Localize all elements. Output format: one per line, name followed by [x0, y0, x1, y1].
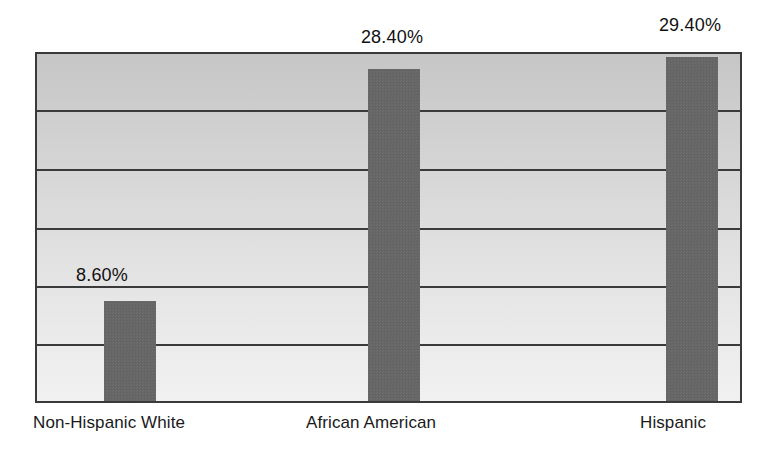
bar-non-hispanic-white[interactable]: [104, 301, 156, 401]
bar-african-american[interactable]: [368, 69, 420, 401]
value-label-african-american: 28.40%: [340, 27, 444, 48]
y-axis-label: es: [0, 150, 14, 270]
category-label-african-american: African American: [306, 413, 436, 433]
category-label-non-hispanic-white: Non-Hispanic White: [33, 413, 185, 433]
y-axis-label-text: es: [3, 150, 15, 270]
value-label-hispanic: 29.40%: [638, 15, 742, 36]
plot-area: [35, 52, 742, 403]
value-label-non-hispanic-white: 8.60%: [62, 265, 142, 286]
bar-hispanic[interactable]: [666, 57, 718, 401]
bar-chart: es 8.60% 28.40% 29.40% Non-Hispanic Whit…: [0, 0, 775, 457]
category-label-hispanic: Hispanic: [640, 413, 706, 433]
